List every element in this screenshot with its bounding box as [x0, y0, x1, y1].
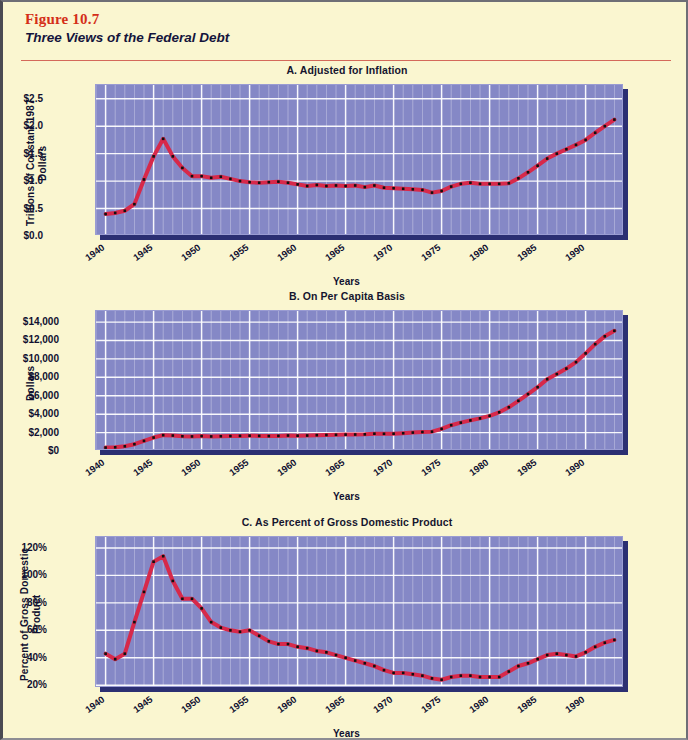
figure-number: Figure 10.7 — [25, 12, 686, 28]
y-tick-label: $2.0 — [24, 120, 43, 131]
y-tick-label: $2.5 — [24, 92, 43, 103]
x-tick-label: 1945 — [131, 457, 155, 478]
chart-c-plot-area — [95, 536, 623, 687]
y-tick-label: 40% — [27, 651, 47, 662]
x-tick-label: 1965 — [323, 457, 347, 478]
x-tick-label: 1960 — [275, 242, 299, 263]
x-tick-label: 1970 — [371, 457, 395, 478]
x-tick-label: 1985 — [515, 457, 539, 478]
x-tick-label: 1970 — [371, 242, 395, 263]
x-tick-label: 1975 — [419, 242, 443, 263]
chart-a-y-ticks: $0.0$0.5$1.0$1.5$2.0$2.5 — [0, 84, 43, 235]
y-tick-label: $12,000 — [23, 334, 59, 345]
y-tick-label: $1.0 — [24, 175, 43, 186]
figure-header: Figure 10.7 Three Views of the Federal D… — [3, 2, 686, 46]
x-tick-label: 1960 — [275, 457, 299, 478]
y-tick-label: $8,000 — [28, 371, 59, 382]
x-tick-label: 1970 — [371, 694, 395, 715]
chart-b-y-ticks: $0$2,000$4,000$6,000$8,000$10,000$12,000… — [0, 310, 59, 450]
y-tick-label: $1.5 — [24, 147, 43, 158]
chart-as-percent-of-gdp: C. As Percent of Gross Domestic ProductP… — [3, 516, 688, 740]
y-tick-label: $14,000 — [23, 316, 59, 327]
chart-a-x-axis-label: Years — [333, 276, 360, 287]
y-tick-label: 120% — [21, 541, 47, 552]
header-divider — [21, 60, 671, 61]
y-tick-label: $6,000 — [28, 389, 59, 400]
y-tick-label: 20% — [27, 679, 47, 690]
chart-b-x-axis-label: Years — [333, 491, 360, 502]
y-tick-label: $0.5 — [24, 202, 43, 213]
chart-c-x-axis-label: Years — [333, 728, 360, 739]
x-tick-label: 1955 — [227, 694, 251, 715]
x-tick-label: 1950 — [179, 457, 203, 478]
chart-on-per-capita-basis: B. On Per Capita BasisDollars$0$2,000$4,… — [3, 290, 688, 511]
x-tick-label: 1955 — [227, 457, 251, 478]
chart-c-y-ticks: 20%40%60%80%100%120% — [1, 536, 47, 687]
x-tick-label: 1945 — [131, 694, 155, 715]
x-tick-label: 1975 — [419, 457, 443, 478]
x-tick-label: 1955 — [227, 242, 251, 263]
figure-page: Figure 10.7 Three Views of the Federal D… — [0, 0, 688, 740]
chart-a-plot-area — [95, 84, 623, 235]
x-tick-label: 1965 — [323, 242, 347, 263]
x-tick-label: 1990 — [563, 694, 587, 715]
x-tick-label: 1985 — [515, 694, 539, 715]
x-tick-label: 1950 — [179, 242, 203, 263]
x-tick-label: 1985 — [515, 242, 539, 263]
y-tick-label: 100% — [21, 569, 47, 580]
y-tick-label: $2,000 — [28, 426, 59, 437]
x-tick-label: 1940 — [83, 694, 107, 715]
figure-title: Three Views of the Federal Debt — [25, 30, 686, 46]
x-tick-label: 1990 — [563, 242, 587, 263]
x-tick-label: 1980 — [467, 242, 491, 263]
x-tick-label: 1945 — [131, 242, 155, 263]
x-tick-label: 1980 — [467, 694, 491, 715]
x-tick-label: 1940 — [83, 457, 107, 478]
x-tick-label: 1980 — [467, 457, 491, 478]
x-tick-label: 1965 — [323, 694, 347, 715]
y-tick-label: $0 — [48, 445, 59, 456]
y-tick-label: 80% — [27, 596, 47, 607]
chart-a-title: A. Adjusted for Inflation — [3, 64, 688, 76]
chart-b-plot-area — [95, 310, 623, 450]
x-tick-label: 1950 — [179, 694, 203, 715]
x-tick-label: 1960 — [275, 694, 299, 715]
x-tick-label: 1975 — [419, 694, 443, 715]
y-tick-label: $4,000 — [28, 408, 59, 419]
y-tick-label: $0.0 — [24, 230, 43, 241]
chart-adjusted-for-inflation: A. Adjusted for InflationTrillions of Co… — [3, 64, 688, 296]
y-tick-label: $10,000 — [23, 352, 59, 363]
y-tick-label: 60% — [27, 624, 47, 635]
chart-b-title: B. On Per Capita Basis — [3, 290, 688, 302]
x-tick-label: 1990 — [563, 457, 587, 478]
x-tick-label: 1940 — [83, 242, 107, 263]
chart-c-title: C. As Percent of Gross Domestic Product — [3, 516, 688, 528]
